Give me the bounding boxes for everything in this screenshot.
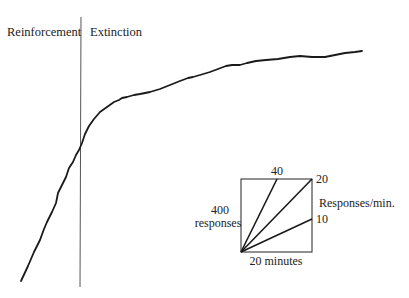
rate-line-40	[241, 179, 277, 252]
phase-label-extinction: Extinction	[90, 25, 143, 39]
cumulative-record-chart: Reinforcement Extinction 40 20 10 Respon…	[0, 0, 409, 298]
inset-y-label-value: 400	[211, 203, 229, 217]
rate-scale-inset: 40 20 10 Responses/min. 400 responses 20…	[195, 164, 395, 268]
phase-label-reinforcement: Reinforcement	[7, 25, 82, 39]
cumulative-response-curve	[21, 51, 362, 281]
rate-label-40: 40	[271, 164, 283, 178]
rate-label-10: 10	[316, 212, 328, 226]
rate-label-20: 20	[316, 172, 328, 186]
rate-line-20	[241, 179, 312, 252]
rate-axis-title: Responses/min.	[319, 196, 395, 210]
inset-y-label-unit: responses	[195, 216, 242, 230]
rate-line-10	[241, 219, 312, 252]
inset-x-label: 20 minutes	[250, 254, 303, 268]
phase-divider-line	[80, 17, 81, 287]
